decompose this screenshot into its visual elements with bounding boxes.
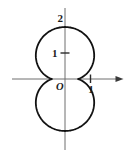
curve-plot-figure: 2 1 O 1: [0, 0, 131, 159]
y-axis-label-1: 1: [52, 47, 58, 59]
x-axis-label-1: 1: [88, 83, 94, 95]
x-axis-arrowhead-icon: [116, 76, 124, 82]
origin-label: O: [56, 81, 64, 92]
y-axis-label-2: 2: [58, 12, 64, 24]
plot-canvas: 2 1 O 1: [0, 0, 131, 159]
